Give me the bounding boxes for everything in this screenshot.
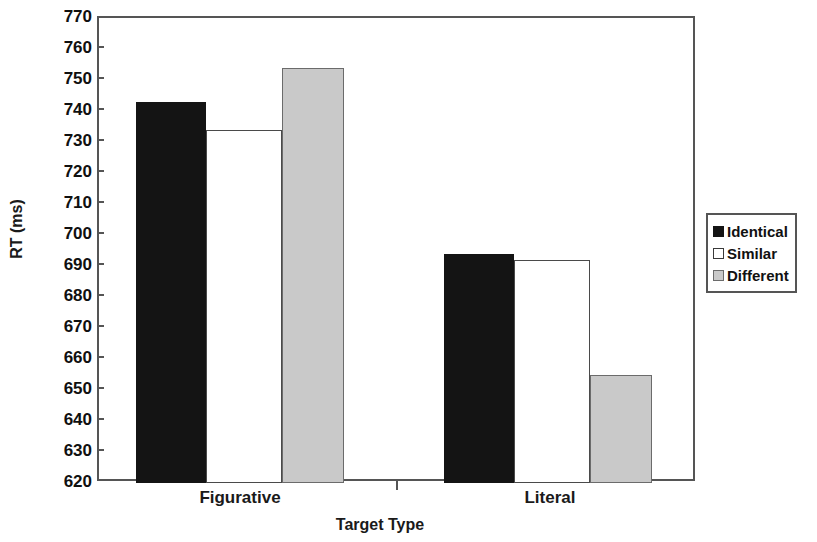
y-axis-tick-label: 650: [28, 380, 92, 397]
y-axis-tick-mark: [97, 201, 104, 203]
y-axis-tick-label: 640: [28, 411, 92, 428]
y-axis-tick-mark: [97, 387, 104, 389]
y-axis-tick-mark: [97, 108, 104, 110]
y-axis-tick-labels: 7707607507407307207107006906806706606506…: [28, 0, 92, 542]
y-axis-tick-mark: [97, 139, 104, 141]
y-axis-tick-label: 670: [28, 318, 92, 335]
bar-chart-figure: RT (ms) 77076075074073072071070069068067…: [0, 0, 817, 542]
y-axis-tick-label: 740: [28, 101, 92, 118]
legend-item-different[interactable]: Different: [713, 264, 789, 286]
y-axis-tick-mark: [97, 46, 104, 48]
x-axis-mid-tick: [396, 481, 398, 490]
y-axis-tick-mark: [97, 263, 104, 265]
y-axis-tick-label: 630: [28, 442, 92, 459]
bar-figurative-different: [282, 68, 344, 483]
y-axis-tick-mark: [97, 418, 104, 420]
legend-item-similar[interactable]: Similar: [713, 242, 789, 264]
y-axis-tick-mark: [97, 325, 104, 327]
y-axis-tick-mark: [97, 356, 104, 358]
legend-label: Identical: [727, 224, 788, 239]
y-axis-tick-label: 690: [28, 256, 92, 273]
x-axis-category-figurative: Figurative: [150, 488, 330, 508]
legend-swatch-similar-icon: [713, 248, 724, 259]
y-axis-tick-mark: [97, 232, 104, 234]
chart-legend: IdenticalSimilarDifferent: [706, 213, 797, 293]
y-axis-tick-label: 720: [28, 163, 92, 180]
bar-literal-identical: [444, 254, 514, 483]
y-axis-tick-mark: [97, 170, 104, 172]
legend-swatch-different-icon: [713, 270, 724, 281]
y-axis-tick-label: 660: [28, 349, 92, 366]
y-axis-tick-mark: [97, 294, 104, 296]
y-axis-tick-label: 770: [28, 8, 92, 25]
legend-label: Similar: [727, 246, 777, 261]
legend-swatch-identical-icon: [713, 226, 724, 237]
y-axis-tick-label: 700: [28, 225, 92, 242]
x-axis-title: Target Type: [0, 516, 760, 534]
x-axis-category-literal: Literal: [460, 488, 640, 508]
y-axis-tick-label: 730: [28, 132, 92, 149]
legend-item-identical[interactable]: Identical: [713, 220, 789, 242]
bar-literal-different: [590, 375, 652, 484]
y-axis-tick-label: 620: [28, 473, 92, 490]
y-axis-tick-label: 760: [28, 39, 92, 56]
plot-area-frame: [97, 16, 695, 481]
y-axis-tick-label: 750: [28, 70, 92, 87]
bar-figurative-similar: [206, 130, 282, 483]
y-axis-tick-mark: [97, 77, 104, 79]
y-axis-tick-label: 680: [28, 287, 92, 304]
y-axis-tick-mark: [97, 449, 104, 451]
y-axis-title: RT (ms): [8, 169, 26, 289]
legend-label: Different: [727, 268, 789, 283]
bar-literal-similar: [514, 260, 590, 483]
y-axis-tick-label: 710: [28, 194, 92, 211]
bar-figurative-identical: [136, 102, 206, 483]
plot-area: [99, 18, 697, 483]
